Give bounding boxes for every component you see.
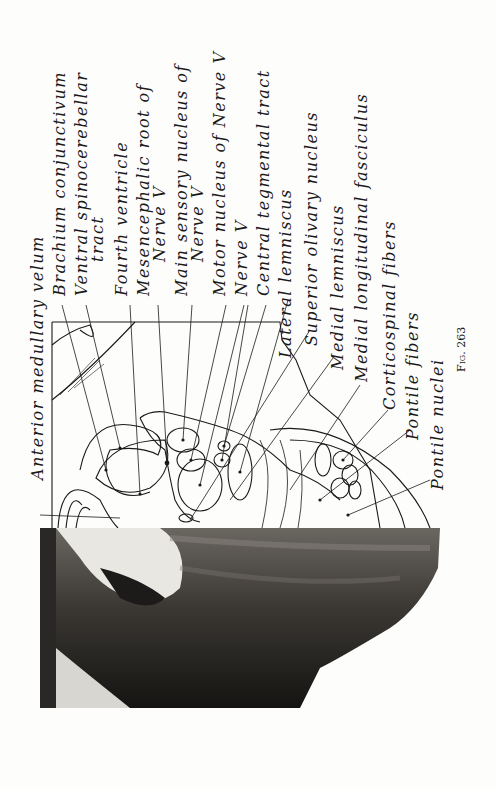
label-pontile-fibers: Pontile fibers: [405, 311, 421, 440]
label-tract: tract: [90, 215, 106, 262]
figure-caption: Fig. 263: [455, 327, 468, 372]
label-nerve-v-3: Nerve V: [234, 219, 250, 296]
label-superior-olivary-nucleus: Superior olivary nucleus: [304, 111, 320, 346]
label-ventral-spinocerebellar: Ventral spinocerebellar: [74, 72, 90, 296]
label-pontile-nuclei: Pontile nuclei: [430, 358, 446, 490]
label-corticospinal-fibers: Corticospinal fibers: [382, 220, 398, 410]
label-nerve-v-1: Nerve V: [152, 185, 168, 262]
label-medial-longitudinal-fasciculus: Medial longitudinal fasciculus: [354, 93, 370, 382]
label-nerve-v-2: Nerve V: [190, 185, 206, 262]
label-anterior-medullary-velum: Anterior medullary velum: [30, 235, 46, 480]
label-central-tegmental-tract: Central tegmental tract: [256, 69, 272, 296]
label-medial-lemniscus: Medial lemniscus: [330, 204, 346, 370]
label-lateral-lemniscus: Lateral lemniscus: [278, 188, 294, 358]
histology-photograph: [40, 528, 440, 708]
label-fourth-ventricle: Fourth ventricle: [114, 141, 130, 296]
label-brachium-conjunctivum: Brachium conjunctivum: [52, 71, 68, 296]
label-motor-nucleus: Motor nucleus of Nerve V: [212, 51, 228, 296]
